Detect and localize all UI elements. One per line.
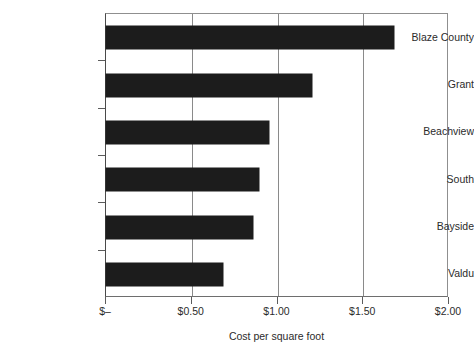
x-axis-title: Cost per square foot bbox=[105, 330, 448, 342]
y-axis-category-label: South bbox=[378, 173, 474, 185]
bar bbox=[106, 121, 269, 144]
x-axis-tick bbox=[191, 297, 192, 304]
x-axis-tick bbox=[362, 297, 363, 304]
y-axis-tick bbox=[98, 108, 105, 109]
bar-row bbox=[106, 216, 253, 239]
bar-row bbox=[106, 263, 223, 286]
x-axis-tick bbox=[448, 297, 449, 304]
bar bbox=[106, 168, 259, 191]
x-axis-tick bbox=[277, 297, 278, 304]
y-axis-tick bbox=[98, 250, 105, 251]
gridline bbox=[278, 14, 279, 296]
y-axis-category-label: Beachview bbox=[378, 125, 474, 137]
bar-row bbox=[106, 121, 269, 144]
bar-row bbox=[106, 74, 312, 97]
bar bbox=[106, 26, 394, 49]
bar-chart: $–$0.50$1.00$1.50$2.00Blaze CountyGrantB… bbox=[0, 0, 474, 357]
x-axis-tick-label: $1.00 bbox=[263, 305, 289, 317]
x-axis-tick bbox=[105, 297, 106, 304]
y-axis-category-label: Valdu bbox=[378, 267, 474, 279]
plot-area bbox=[105, 13, 448, 297]
bar-row bbox=[106, 26, 394, 49]
y-axis-category-label: Grant bbox=[378, 78, 474, 90]
y-axis-tick bbox=[98, 60, 105, 61]
x-axis-tick-label: $2.00 bbox=[435, 305, 461, 317]
bar bbox=[106, 74, 312, 97]
bar-row bbox=[106, 168, 259, 191]
y-axis-category-label: Blaze County bbox=[378, 31, 474, 43]
gridline bbox=[192, 14, 193, 296]
bar bbox=[106, 216, 253, 239]
bar bbox=[106, 263, 223, 286]
gridline bbox=[363, 14, 364, 296]
y-axis-tick bbox=[98, 202, 105, 203]
y-axis-tick bbox=[98, 155, 105, 156]
x-axis-tick-label: $1.50 bbox=[349, 305, 375, 317]
x-axis-tick-label: $0.50 bbox=[178, 305, 204, 317]
y-axis-category-label: Bayside bbox=[378, 220, 474, 232]
x-axis-tick-label: $– bbox=[99, 305, 111, 317]
